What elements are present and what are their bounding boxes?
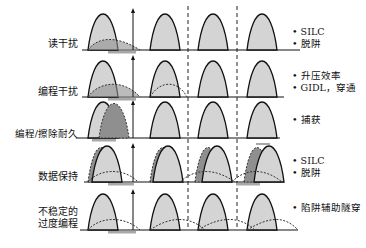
row-program-disturb <box>82 55 284 101</box>
note-item: • SILC <box>292 26 324 38</box>
notes-endurance: • 捕获 <box>292 114 321 126</box>
note-item: • 陷阱辅助隧穿 <box>292 202 361 214</box>
row-read-disturb <box>82 8 300 54</box>
row-data-retention <box>84 143 284 186</box>
row-label-program-disturb: 编程干扰 <box>0 86 78 98</box>
notes-program-disturb: • 升压效率 • GIDL，穿通 <box>292 70 356 94</box>
note-item: • 脱阱 <box>292 38 324 50</box>
row-label-program-erase-endurance: 编程/擦除耐久 <box>0 128 78 140</box>
notes-data-retention: • SILC • 脱阱 <box>292 155 324 179</box>
row-label-data-retention: 数据保持 <box>0 171 78 183</box>
row-unstable-overprogramming <box>80 189 298 234</box>
note-item: • GIDL，穿通 <box>292 82 356 94</box>
row-label-read-disturb: 读干扰 <box>0 38 78 50</box>
row-program-erase-endurance <box>76 100 280 142</box>
notes-read-disturb: • SILC • 脱阱 <box>292 26 324 50</box>
note-item: • SILC <box>292 155 324 167</box>
note-item: • 升压效率 <box>292 70 356 82</box>
note-item: • 捕获 <box>292 114 321 126</box>
note-item: • 脱阱 <box>292 167 324 179</box>
row-label-line1: 不稳定的 <box>0 206 78 218</box>
notes-unstable-overprogramming: • 陷阱辅助隧穿 <box>292 202 361 214</box>
row-label-unstable-overprogramming: 不稳定的 过度编程 <box>0 206 78 230</box>
row-label-line2: 过度编程 <box>0 218 78 230</box>
